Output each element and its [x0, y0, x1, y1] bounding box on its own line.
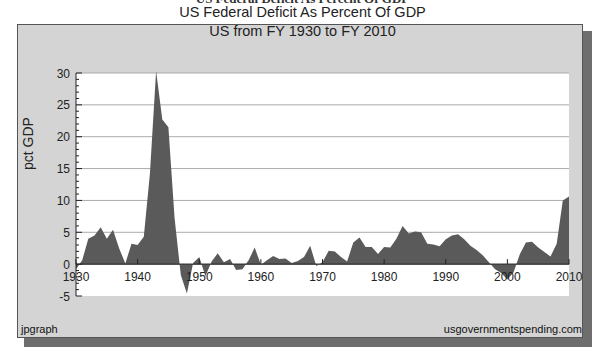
y-tick-label: 10: [57, 194, 71, 208]
x-tick-label: 2000: [494, 270, 521, 284]
x-tick-label: 1940: [124, 270, 151, 284]
y-tick-label: 15: [57, 162, 71, 176]
y-tick-label: 5: [63, 226, 70, 240]
x-tick-label: 1960: [248, 270, 275, 284]
y-tick-label: 25: [57, 98, 71, 112]
footer-credit-jpgraph: jpgraph: [21, 323, 58, 335]
area-chart: -505101520253019301940195019601970198019…: [0, 0, 605, 358]
x-tick-label: 1930: [63, 270, 90, 284]
x-tick-label: 1950: [186, 270, 213, 284]
x-tick-label: 1970: [309, 270, 336, 284]
x-tick-label: 2010: [556, 270, 583, 284]
x-tick-label: 1990: [432, 270, 459, 284]
y-tick-label: -5: [59, 290, 70, 304]
x-tick-label: 1980: [371, 270, 398, 284]
y-axis-label: pct GDP: [20, 117, 36, 170]
y-tick-label: 20: [57, 130, 71, 144]
footer-credit-source: usgovernmentspending.com: [444, 323, 582, 335]
y-tick-label: 30: [57, 67, 71, 81]
